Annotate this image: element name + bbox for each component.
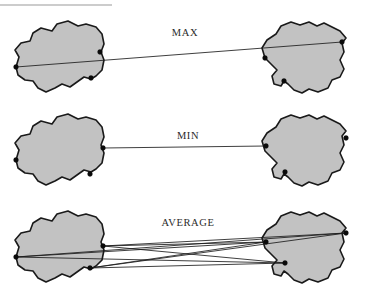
cluster-blob-average-right [262,212,346,283]
data-point-min-R1 [264,144,269,149]
data-point-max-R1 [263,56,268,61]
data-point-max-R0 [340,40,345,45]
row-label-min: MIN [177,130,199,141]
data-point-average-L2 [88,266,93,271]
row-min: MIN [14,114,349,186]
cluster-blob-average-left [15,211,104,282]
row-label-average: AVERAGE [161,217,214,228]
link-average-L1-R2 [103,246,285,263]
data-point-average-L1 [101,244,106,249]
link-min-L1-R1 [103,146,266,148]
row-label-max: MAX [172,27,198,38]
data-point-max-L0 [14,65,19,70]
data-point-max-L1 [98,50,103,55]
data-point-max-L2 [89,76,94,81]
row-max: MAX [14,21,346,93]
data-point-min-R2 [283,170,288,175]
cluster-blob-max-left [15,21,104,92]
data-point-min-R0 [344,136,349,141]
data-point-average-R0 [344,231,349,236]
cluster-blob-max-right [262,22,346,93]
data-point-average-L0 [14,255,19,260]
data-point-min-L0 [14,158,19,163]
data-point-average-R1 [264,240,269,245]
data-point-average-R2 [283,261,288,266]
cluster-blob-min-right [262,115,346,186]
row-average: AVERAGE [14,211,349,283]
data-point-min-L2 [88,172,93,177]
data-point-max-R2 [282,79,287,84]
min-links-over [103,146,266,148]
cluster-distance-diagram: MAX MIN AVERAGE [0,0,371,300]
data-point-min-L1 [101,146,106,151]
